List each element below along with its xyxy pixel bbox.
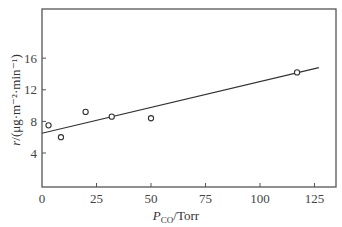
- x-axis-label: PCO/Torr: [152, 208, 200, 225]
- x-tick-label: 0: [39, 191, 46, 206]
- data-point: [58, 135, 63, 140]
- y-axis-label: r/(μg·m⁻²·min⁻¹): [8, 54, 23, 146]
- fit-line: [42, 68, 319, 134]
- y-tick-label: 16: [24, 51, 38, 66]
- y-tick-label: 8: [31, 114, 38, 129]
- data-point: [148, 116, 153, 121]
- x-tick-label: 125: [305, 191, 325, 206]
- x-tick-label: 25: [90, 191, 103, 206]
- chart: 0255075100125481216PCO/Torrr/(μg·m⁻²·min…: [0, 0, 342, 227]
- data-point: [83, 109, 88, 114]
- data-point: [109, 114, 114, 119]
- data-point: [294, 70, 299, 75]
- y-tick-label: 4: [31, 146, 38, 161]
- data-point: [46, 123, 51, 128]
- x-tick-label: 100: [250, 191, 270, 206]
- y-tick-label: 12: [24, 82, 37, 97]
- x-tick-label: 75: [199, 191, 212, 206]
- x-tick-label: 50: [145, 191, 158, 206]
